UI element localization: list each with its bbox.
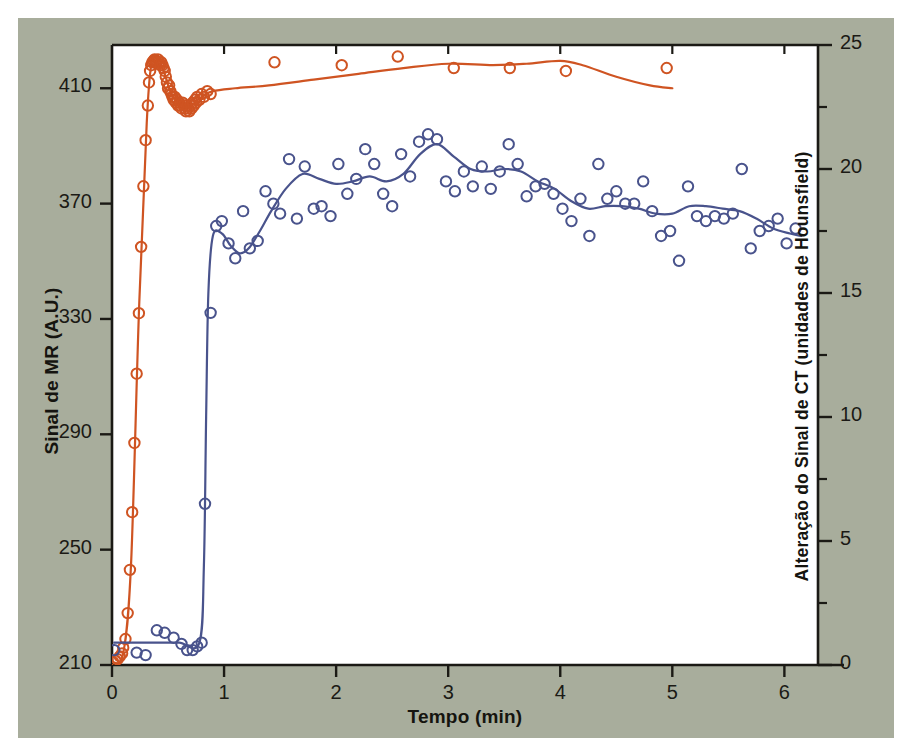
figure-canvas: Sinal de MR (A.U.) Alteração do Sinal de… <box>0 0 912 756</box>
chart-plot-area <box>0 0 912 756</box>
y-axis-left-title: Sinal de MR (A.U.) <box>41 221 63 521</box>
y-axis-left-tick-label: 210 <box>20 651 92 674</box>
x-axis-tick-label: 6 <box>759 681 809 704</box>
y-axis-right-tick-label: 5 <box>840 527 886 550</box>
x-axis-title: Tempo (min) <box>112 706 818 728</box>
y-axis-left-tick-label: 370 <box>20 190 92 213</box>
y-axis-right-tick-label: 20 <box>840 155 886 178</box>
x-axis-tick-label: 0 <box>87 681 137 704</box>
x-axis-tick-label: 4 <box>535 681 585 704</box>
y-axis-right-tick-label: 10 <box>840 403 886 426</box>
y-axis-right-title: Alteração do Sinal de CT (unidades de Ho… <box>792 37 813 697</box>
x-axis-tick-label: 3 <box>423 681 473 704</box>
plot-background <box>112 45 818 665</box>
x-axis-tick-label: 5 <box>647 681 697 704</box>
y-axis-right-tick-label: 25 <box>840 31 886 54</box>
y-axis-left-tick-label: 330 <box>20 305 92 328</box>
x-axis-tick-label: 1 <box>199 681 249 704</box>
y-axis-right-tick-label: 0 <box>840 651 886 674</box>
x-axis-tick-label: 2 <box>311 681 361 704</box>
y-axis-left-tick-label: 250 <box>20 536 92 559</box>
y-axis-left-tick-label: 410 <box>20 74 92 97</box>
y-axis-right-tick-label: 15 <box>840 279 886 302</box>
y-axis-left-tick-label: 290 <box>20 420 92 443</box>
